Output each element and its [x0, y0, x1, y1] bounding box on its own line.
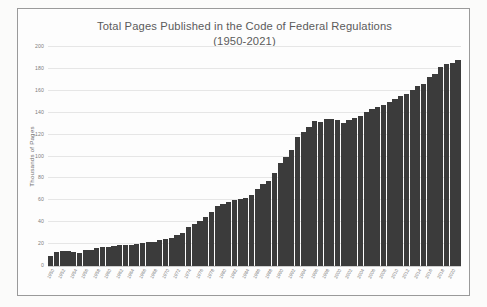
bar — [255, 189, 260, 266]
bar — [438, 67, 443, 266]
bar — [329, 119, 334, 266]
bar — [169, 238, 174, 266]
bar — [427, 77, 432, 266]
bar — [444, 64, 449, 266]
bar — [186, 227, 191, 266]
bar — [243, 198, 248, 266]
bar — [410, 90, 415, 266]
bar — [106, 247, 111, 266]
bar — [404, 94, 409, 266]
y-tick-label: 40 — [38, 218, 44, 224]
chart-title-line-2: (1950-2021) — [213, 35, 276, 47]
bar — [398, 96, 403, 266]
bar — [197, 221, 202, 266]
bar — [295, 137, 300, 266]
bar — [157, 240, 162, 266]
bar — [209, 212, 214, 266]
bar — [54, 252, 59, 266]
bar — [306, 127, 311, 266]
bar — [318, 122, 323, 266]
bar — [94, 248, 99, 266]
bar — [387, 102, 392, 266]
bar — [341, 123, 346, 266]
bar — [83, 250, 88, 266]
bar — [346, 120, 351, 266]
plot-area: 020406080100120140160180200 — [48, 47, 461, 266]
bar — [369, 109, 374, 266]
bar — [220, 204, 225, 266]
bar — [358, 116, 363, 266]
bar — [289, 150, 294, 266]
bar — [364, 112, 369, 266]
y-tick-label: 200 — [35, 43, 44, 49]
bar — [117, 245, 122, 266]
bar — [174, 235, 179, 266]
bar — [192, 224, 197, 266]
bar — [140, 243, 145, 266]
bar — [381, 105, 386, 266]
bar — [111, 246, 116, 266]
chart-title-line-1: Total Pages Published in the Code of Fed… — [97, 20, 392, 32]
bar — [324, 119, 329, 266]
bar — [65, 251, 70, 266]
chart-title: Total Pages Published in the Code of Fed… — [18, 19, 470, 48]
x-tick-slot — [455, 267, 461, 296]
bar — [375, 107, 380, 266]
bar — [123, 245, 128, 266]
y-tick-label: 60 — [38, 196, 44, 202]
bar — [352, 118, 357, 266]
y-axis-title-text: Thousands of Pages — [28, 126, 35, 186]
y-tick-label: 20 — [38, 240, 44, 246]
bar — [392, 99, 397, 266]
bar — [283, 157, 288, 267]
bar — [272, 173, 277, 266]
bar — [415, 86, 420, 266]
y-tick-label: 140 — [35, 109, 44, 115]
bar — [421, 84, 426, 266]
bar — [301, 132, 306, 266]
bar — [249, 195, 254, 266]
bar — [77, 253, 82, 266]
y-tick-label: 100 — [35, 153, 44, 159]
bar-series — [48, 47, 461, 266]
y-tick-label: 0 — [41, 262, 44, 268]
bar — [335, 120, 340, 266]
bar — [266, 181, 271, 266]
bar — [232, 200, 237, 266]
bar — [100, 247, 105, 266]
bar — [180, 233, 185, 266]
bar — [146, 242, 151, 266]
bar — [60, 251, 65, 266]
bar — [151, 242, 156, 266]
x-axis-tick-labels: 1950195219541956195819601962196419661968… — [48, 267, 461, 296]
y-tick-label: 120 — [35, 131, 44, 137]
bar — [432, 74, 437, 266]
bar — [134, 244, 139, 266]
y-tick-label: 180 — [35, 65, 44, 71]
bar — [48, 256, 53, 267]
bar — [163, 239, 168, 266]
bar — [129, 245, 134, 266]
bar — [278, 163, 283, 266]
bar — [455, 60, 460, 266]
bar — [88, 250, 93, 266]
bar — [203, 217, 208, 266]
y-tick-label: 160 — [35, 87, 44, 93]
y-tick-label: 80 — [38, 174, 44, 180]
bar — [312, 121, 317, 266]
bar — [215, 206, 220, 266]
chart-figure: Total Pages Published in the Code of Fed… — [17, 8, 470, 296]
bar — [450, 63, 455, 266]
bar — [238, 199, 243, 266]
bar — [260, 184, 265, 266]
bar — [71, 252, 76, 266]
bar — [226, 202, 231, 266]
screenshot-page: Total Pages Published in the Code of Fed… — [0, 0, 487, 307]
